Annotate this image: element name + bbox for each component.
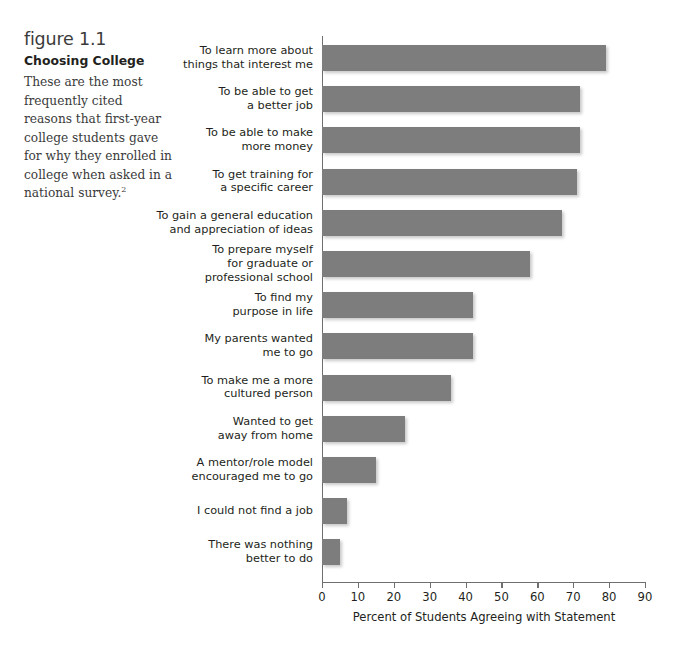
plot-area: To learn more about things that interest… [322, 40, 645, 583]
bar-category-label: To be able to get a better job [98, 85, 313, 113]
bar-category-label: To gain a general education and apprecia… [98, 209, 313, 237]
bar-chart: To learn more about things that interest… [0, 0, 683, 647]
bar-row: I could not find a job [322, 498, 645, 524]
bar-row: To prepare myself for graduate or profes… [322, 251, 645, 277]
x-axis-tick-label: 60 [517, 590, 557, 604]
x-axis-tick [394, 582, 395, 588]
bar [322, 210, 562, 236]
x-axis-tick-label: 30 [410, 590, 450, 604]
bar [322, 127, 580, 153]
bar-row: To be able to get a better job [322, 86, 645, 112]
bar-category-label: To learn more about things that interest… [98, 44, 313, 72]
bar [322, 375, 451, 401]
x-axis-title: Percent of Students Agreeing with Statem… [322, 610, 646, 624]
bar-category-label: To make me a more cultured person [98, 374, 313, 402]
x-axis-tick-label: 90 [625, 590, 665, 604]
x-axis-tick [430, 582, 431, 588]
bar-category-label: Wanted to get away from home [98, 415, 313, 443]
x-axis-tick [358, 582, 359, 588]
bar-row: To get training for a specific career [322, 169, 645, 195]
bar [322, 45, 606, 71]
bar-category-label: To get training for a specific career [98, 168, 313, 196]
bar-row: To make me a more cultured person [322, 375, 645, 401]
bar [322, 457, 376, 483]
x-axis-tick [322, 582, 323, 588]
x-axis-tick-label: 80 [589, 590, 629, 604]
bar-category-label: To prepare myself for graduate or profes… [98, 243, 313, 284]
x-axis-tick [537, 582, 538, 588]
x-axis-tick-label: 40 [446, 590, 486, 604]
bar-category-label: A mentor/role model encouraged me to go [98, 456, 313, 484]
bar-category-label: To be able to make more money [98, 127, 313, 155]
bar-row: My parents wanted me to go [322, 333, 645, 359]
bar-category-label: There was nothing better to do [98, 539, 313, 567]
bar [322, 86, 580, 112]
bar-row: Wanted to get away from home [322, 416, 645, 442]
bar-row: To find my purpose in life [322, 292, 645, 318]
x-axis-tick-label: 0 [302, 590, 342, 604]
bar [322, 416, 405, 442]
x-axis-tick-label: 50 [481, 590, 521, 604]
bar-category-label: My parents wanted me to go [98, 333, 313, 361]
bar [322, 498, 347, 524]
bar [322, 169, 577, 195]
bar-category-label: I could not find a job [98, 504, 313, 518]
bar [322, 333, 473, 359]
bar-row: To be able to make more money [322, 127, 645, 153]
x-axis-tick-label: 70 [553, 590, 593, 604]
bar-row: To gain a general education and apprecia… [322, 210, 645, 236]
bar-row: A mentor/role model encouraged me to go [322, 457, 645, 483]
x-axis-tick-label: 20 [374, 590, 414, 604]
bar [322, 539, 340, 565]
x-axis-tick [573, 582, 574, 588]
x-axis-tick [466, 582, 467, 588]
x-axis-tick [645, 582, 646, 588]
bar-category-label: To find my purpose in life [98, 291, 313, 319]
bar [322, 251, 530, 277]
x-axis-tick-label: 10 [338, 590, 378, 604]
bar-row: To learn more about things that interest… [322, 45, 645, 71]
x-axis-tick [609, 582, 610, 588]
x-axis-tick [501, 582, 502, 588]
bar [322, 292, 473, 318]
bar-row: There was nothing better to do [322, 539, 645, 565]
